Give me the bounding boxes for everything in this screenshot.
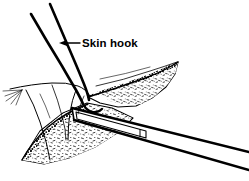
annotation-label-skin-hook: Skin hook — [82, 37, 138, 49]
figure-container: Skin hook — [0, 0, 249, 181]
medical-illustration-skin-hook: Skin hook — [0, 0, 249, 181]
